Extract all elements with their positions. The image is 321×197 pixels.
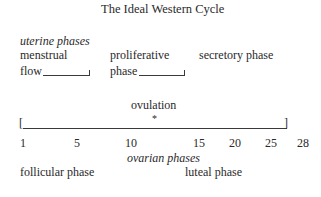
menstrual-flow-label-line2: flow [20,65,42,77]
day-tick-25: 25 [265,137,277,149]
day-tick-20: 20 [229,137,241,149]
uterine-phases-heading: uterine phases [20,35,90,47]
luteal-phase-label: luteal phase [185,166,242,178]
proliferative-phase-end-tick [184,70,185,76]
proliferative-phase-duration-line [139,75,184,76]
cycle-baseline [23,128,287,129]
proliferative-phase-label-line1: proliferative [110,49,169,61]
ovulation-label: ovulation [131,99,176,111]
ovarian-phases-heading: ovarian phases [127,152,200,164]
follicular-phase-label: follicular phase [20,166,94,178]
day-tick-10: 10 [125,137,137,149]
menstrual-flow-label-line1: menstrual [20,49,67,61]
ovulation-marker: * [152,113,157,125]
proliferative-phase-label-line2: phase [110,65,137,77]
secretory-phase-label: secretory phase [199,49,273,61]
day-tick-5: 5 [74,137,80,149]
day-tick-1: 1 [20,137,26,149]
menstrual-flow-end-tick [89,70,90,76]
diagram-title: The Ideal Western Cycle [101,3,224,15]
day-tick-28: 28 [297,137,309,149]
menstrual-flow-duration-line [43,75,89,76]
day-tick-15: 15 [193,137,205,149]
cycle-bracket-right: ] [284,117,288,129]
